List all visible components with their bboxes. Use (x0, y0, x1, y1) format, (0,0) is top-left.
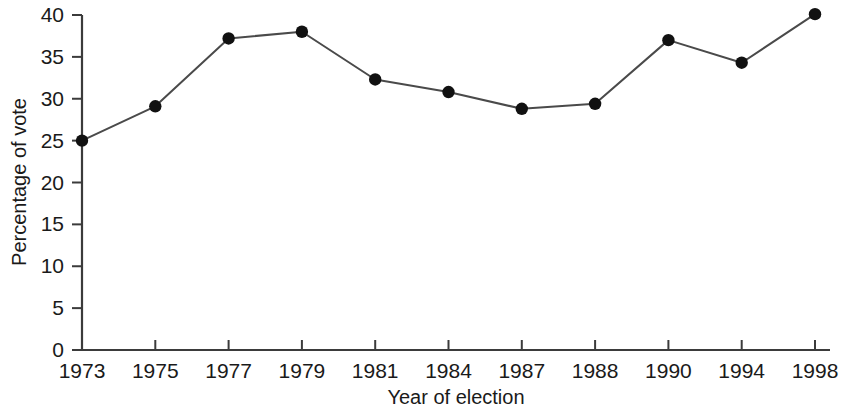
x-tick-label: 1984 (425, 359, 472, 382)
x-tick-label: 1994 (718, 359, 765, 382)
y-tick-label: 0 (52, 338, 64, 361)
data-point (736, 57, 748, 69)
data-point (222, 32, 234, 44)
data-point (662, 34, 674, 46)
data-point (76, 134, 88, 146)
x-tick-label: 1987 (498, 359, 545, 382)
data-line-percentage-of-vote (82, 14, 815, 140)
x-tick-label: 1973 (59, 359, 106, 382)
y-axis-ticks (72, 15, 82, 350)
data-point (516, 103, 528, 115)
x-tick-label: 1990 (645, 359, 692, 382)
y-tick-label: 5 (52, 296, 64, 319)
x-tick-label: 1975 (132, 359, 179, 382)
line-chart: 0510152025303540 19731975197719791981198… (0, 0, 847, 415)
y-tick-label: 10 (41, 254, 64, 277)
x-axis-tick-labels: 1973197519771979198119841987198819901994… (59, 359, 839, 382)
y-axis-tick-labels: 0510152025303540 (41, 3, 64, 361)
y-tick-label: 25 (41, 129, 64, 152)
data-point (809, 8, 821, 20)
data-point (589, 98, 601, 110)
y-tick-label: 15 (41, 212, 64, 235)
y-axis-title: Percentage of vote (8, 98, 30, 266)
data-point (296, 26, 308, 38)
y-tick-label: 20 (41, 171, 64, 194)
data-point (369, 73, 381, 85)
x-tick-label: 1988 (572, 359, 619, 382)
x-axis-title: Year of election (387, 386, 524, 408)
data-point (149, 100, 161, 112)
y-tick-label: 40 (41, 3, 64, 26)
x-tick-label: 1977 (205, 359, 252, 382)
x-axis-ticks (82, 340, 815, 350)
x-tick-label: 1998 (792, 359, 839, 382)
chart-canvas: 0510152025303540 19731975197719791981198… (0, 0, 847, 415)
y-tick-label: 35 (41, 45, 64, 68)
y-tick-label: 30 (41, 87, 64, 110)
data-point (442, 86, 454, 98)
x-tick-label: 1981 (352, 359, 399, 382)
x-tick-label: 1979 (279, 359, 326, 382)
